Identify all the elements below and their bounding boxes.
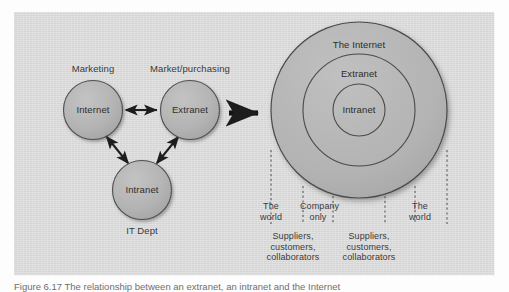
actors-label-right-line3: collaborators [331, 252, 407, 263]
node-label-internet: Internet [53, 104, 133, 115]
actors-label-left: Suppliers, customers, collaborators [255, 231, 331, 263]
zone-label-right-world-line1: The [402, 201, 438, 212]
zone-label-company-line2: only [300, 212, 336, 223]
zone-label-right-world: The world [402, 201, 438, 222]
owner-label-it-dept: IT Dept [102, 225, 182, 236]
zone-label-left-world-line2: world [253, 212, 289, 223]
left-network-group [64, 81, 220, 220]
zone-label-company-line1: Company [300, 201, 336, 212]
node-label-intranet: Intranet [102, 184, 182, 195]
actors-label-right-line2: customers, [331, 242, 407, 253]
ring-label-the-internet: The Internet [309, 39, 409, 50]
actors-label-right: Suppliers, customers, collaborators [331, 231, 407, 263]
owner-label-marketing: Marketing [53, 63, 133, 74]
ring-label-extranet: Extranet [319, 68, 399, 79]
figure-caption: Figure 6.17 The relationship between an … [14, 281, 496, 292]
zone-label-left-world-line1: The [253, 201, 289, 212]
zone-label-right-world-line2: world [402, 212, 438, 223]
connector-intranet-internet [106, 136, 128, 163]
ring-label-intranet: Intranet [319, 104, 399, 115]
figure-container: Marketing Internet Market/purchasing Ext… [0, 0, 509, 292]
actors-label-left-line3: collaborators [255, 252, 331, 263]
zone-label-company: Company only [300, 201, 336, 222]
node-label-extranet: Extranet [150, 104, 230, 115]
owner-label-market-purchasing: Market/purchasing [139, 63, 241, 74]
actors-label-right-line1: Suppliers, [331, 231, 407, 242]
actors-label-left-line2: customers, [255, 242, 331, 253]
actors-label-left-line1: Suppliers, [255, 231, 331, 242]
connector-intranet-extranet [157, 136, 179, 163]
zone-label-left-world: The world [253, 201, 289, 222]
